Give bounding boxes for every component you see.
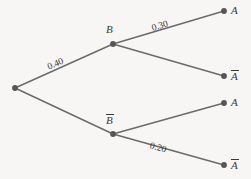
edge-group — [15, 11, 224, 165]
leaf-label-1-text: A — [231, 4, 238, 16]
leaf-label-4-text: A — [231, 159, 238, 171]
tree-edges-canvas — [0, 0, 251, 179]
edge-root-to-branch-upper — [15, 44, 113, 88]
node-dot-leaf-1 — [221, 8, 227, 14]
node-label-branch-upper: B — [106, 24, 113, 35]
node-dot-root — [12, 85, 18, 91]
node-dot-leaf-2 — [221, 73, 227, 79]
edge-root-to-branch-lower — [15, 88, 113, 134]
leaf-label-4: A — [231, 159, 238, 171]
leaf-label-2: A — [231, 70, 238, 82]
node-label-branch-upper-text: B — [106, 23, 113, 35]
edge-branch-lower-to-leaf-a-bar — [113, 134, 224, 165]
probability-tree-diagram: B B A A A A 0.40 0.30 0.20 — [0, 0, 251, 179]
node-label-branch-lower-text: B — [106, 114, 113, 126]
leaf-label-2-text: A — [231, 70, 238, 82]
node-dot-leaf-4 — [221, 162, 227, 168]
leaf-label-3-text: A — [231, 96, 238, 108]
leaf-label-3: A — [231, 97, 238, 108]
node-label-branch-lower: B — [106, 114, 113, 126]
node-dot-leaf-3 — [221, 100, 227, 106]
edge-branch-upper-to-leaf-a-bar — [113, 44, 224, 76]
node-dot-group — [12, 8, 227, 168]
leaf-label-1: A — [231, 5, 238, 16]
node-dot-branch-upper — [110, 41, 116, 47]
edge-branch-lower-to-leaf-a — [113, 103, 224, 134]
node-dot-branch-lower — [110, 131, 116, 137]
